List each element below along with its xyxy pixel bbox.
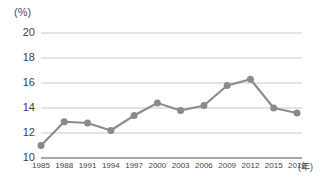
x-axis-tick-label: 2015 <box>265 161 283 170</box>
data-point <box>131 112 138 119</box>
data-point <box>200 102 207 109</box>
x-axis-tick-label: 1991 <box>79 161 97 170</box>
data-line <box>41 79 297 145</box>
line-chart: (%) (年) 101214161820 1985198819911994199… <box>0 0 324 179</box>
x-axis-tick-label: 2000 <box>148 161 166 170</box>
data-point <box>294 110 301 117</box>
data-point <box>107 127 114 134</box>
data-point <box>224 82 231 89</box>
y-axis-tick-label: 14 <box>11 101 35 113</box>
data-point <box>38 142 45 149</box>
x-axis-tick-label: 1985 <box>32 161 50 170</box>
y-axis-tick-label: 20 <box>11 26 35 38</box>
data-point <box>177 107 184 114</box>
y-axis-tick-label: 16 <box>11 76 35 88</box>
x-axis-tick-label: 1997 <box>125 161 143 170</box>
x-axis-tick-label: 2012 <box>242 161 260 170</box>
x-axis-tick-label: 1994 <box>102 161 120 170</box>
y-axis-tick-label: 12 <box>11 126 35 138</box>
x-axis-tick-label: 2018 <box>288 161 306 170</box>
chart-plot-area <box>0 0 324 179</box>
data-point <box>61 118 68 125</box>
x-axis-tick-label: 1988 <box>55 161 73 170</box>
x-axis-tick-label: 2009 <box>218 161 236 170</box>
data-point-group <box>38 76 301 149</box>
data-point <box>247 76 254 83</box>
y-axis-tick-label: 18 <box>11 51 35 63</box>
x-axis-tick-label: 2003 <box>172 161 190 170</box>
data-point <box>270 105 277 112</box>
data-point <box>154 100 161 107</box>
x-axis-tick-label: 2006 <box>195 161 213 170</box>
data-line-group <box>41 79 297 145</box>
data-point <box>84 120 91 127</box>
